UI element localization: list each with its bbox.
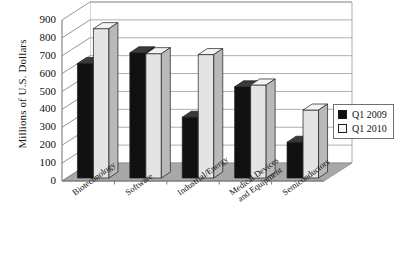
y-tick-label: 500	[22, 86, 56, 97]
y-tick-label: 800	[22, 32, 56, 43]
y-tick-label: 200	[22, 139, 56, 150]
legend-item: Q1 2010	[338, 122, 387, 136]
y-tick-label: 0	[22, 175, 56, 186]
y-tick-label: 100	[22, 157, 56, 168]
y-tick-label: 700	[22, 50, 56, 61]
bar-front-face	[198, 55, 214, 178]
y-tick-label: 300	[22, 121, 56, 132]
bar-front-face	[287, 142, 303, 178]
bar-side-face	[161, 48, 170, 178]
bar-front-face	[146, 54, 162, 178]
bar-front-face	[77, 64, 93, 178]
bar-front-face	[182, 117, 198, 178]
y-tick-label: 400	[22, 103, 56, 114]
legend-swatch-icon	[338, 110, 347, 119]
y-tick-label: 600	[22, 68, 56, 79]
bar-side-face	[109, 23, 118, 178]
bar-front-face	[93, 29, 109, 178]
legend: Q1 2009 Q1 2010	[333, 104, 394, 139]
bar-front-face	[130, 53, 146, 178]
legend-item: Q1 2009	[338, 108, 387, 122]
bar-chart: Millions of U.S. Dollars 900800700600500…	[0, 0, 417, 272]
legend-label: Q1 2009	[352, 108, 387, 122]
y-tick-label: 900	[22, 14, 56, 25]
legend-label: Q1 2010	[352, 122, 387, 136]
bar-front-face	[235, 87, 251, 178]
legend-swatch-icon	[338, 124, 347, 133]
